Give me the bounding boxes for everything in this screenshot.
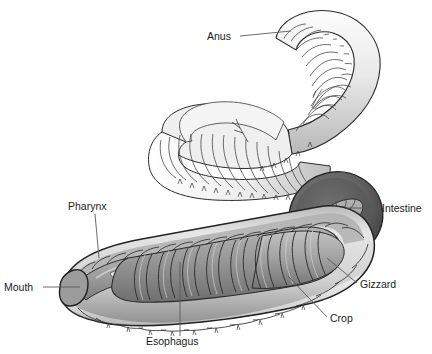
label-mouth: Mouth [4, 281, 33, 293]
label-pharynx: Pharynx [68, 200, 107, 212]
label-anus: Anus [207, 30, 231, 42]
label-esophagus: Esophagus [146, 335, 199, 347]
earthworm-diagram: Anus Pharynx Mouth Esophagus Crop Gizzar… [0, 0, 432, 354]
label-intestine: Intestine [382, 202, 422, 214]
label-gizzard: Gizzard [360, 278, 396, 290]
label-crop: Crop [330, 312, 353, 324]
diagram-canvas: Anus Pharynx Mouth Esophagus Crop Gizzar… [0, 0, 432, 354]
